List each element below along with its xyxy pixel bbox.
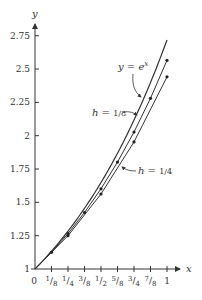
data-point (132, 130, 135, 133)
data-point (165, 59, 168, 62)
data-point (132, 140, 135, 143)
data-point (116, 160, 119, 163)
x-tick-label: 1/2 (95, 275, 107, 288)
y-tick-label: 2.5 (16, 64, 31, 74)
x-tick-label: 3/4 (128, 275, 141, 288)
x-tick-label: 1 (164, 276, 170, 286)
data-point (149, 97, 152, 100)
x-tick-label: 7/8 (145, 275, 157, 288)
y-tick-label: 1 (24, 264, 30, 274)
h-quarter-pointer (122, 167, 136, 171)
x-tick-label: 0 (31, 276, 37, 286)
h-quarter-label: h = 1/4 (138, 165, 172, 176)
euler-method-chart: x y 01/81/43/81/25/83/47/81 11.251.51.75… (0, 0, 202, 300)
data-point (165, 75, 168, 78)
y-tick-label: 2.75 (10, 31, 30, 41)
x-axis-label: x (186, 263, 192, 274)
axes: x y (31, 8, 192, 274)
h-eighth-label: h = 1/8 (92, 107, 126, 118)
y-tick-label: 1.25 (10, 231, 30, 241)
x-tick-label: 5/8 (112, 275, 124, 288)
y-axis-label: y (31, 8, 38, 19)
data-point (99, 187, 102, 190)
exp-curve (35, 40, 167, 269)
exp-curve-label: y = ex (117, 60, 148, 72)
x-tick-label: 1/4 (62, 275, 75, 288)
x-tick-label: 1/8 (46, 275, 58, 288)
y-tick-label: 1.75 (10, 164, 30, 174)
y-tick-label: 2 (24, 131, 30, 141)
data-point (66, 234, 69, 237)
exp-curve-pointer (133, 74, 141, 97)
data-point (99, 192, 102, 195)
x-tick-label: 3/8 (79, 275, 91, 288)
y-tick-label: 2.25 (10, 97, 30, 107)
series-layer (35, 40, 169, 269)
y-tick-label: 1.5 (16, 197, 31, 207)
